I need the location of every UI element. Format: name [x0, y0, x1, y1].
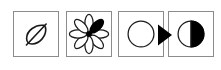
- icon-panel-row: [0, 0, 221, 70]
- flower-icon: [67, 12, 111, 56]
- right-arrow-icon: [157, 24, 173, 46]
- panel-flower[interactable]: [66, 11, 112, 57]
- panel-leaf[interactable]: [13, 11, 59, 57]
- half-filled-circle-icon: [169, 12, 213, 56]
- panel-half-circle[interactable]: [168, 11, 214, 57]
- leaf-icon: [14, 12, 58, 56]
- flower-center: [87, 32, 92, 37]
